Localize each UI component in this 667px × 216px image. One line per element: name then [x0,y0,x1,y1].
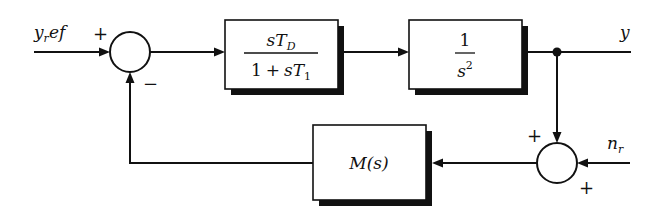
error-summing-junction: + − [93,23,158,94]
minus-sign: − [143,73,158,94]
output-signal: y [528,22,631,57]
arrowhead-icon [398,48,409,57]
plus-sign-bottom: + [579,177,594,198]
controller-block: sTD 1+sT1 [225,20,344,95]
arrowhead-icon [99,48,110,57]
summing-junction-circle [537,143,577,183]
plus-sign-top: + [527,125,542,146]
plus-sign: + [93,23,108,44]
block-diagram: yref + − sTD 1+sT1 1 s2 y [0,0,667,216]
arrowhead-icon [126,72,135,83]
plant-block: 1 s2 [409,20,528,95]
arrowhead-icon [432,159,443,168]
noise-label: nr [607,133,624,156]
reference-input-label: yref [33,22,68,45]
sensor-label: M(s) [348,153,388,173]
output-label: y [619,22,630,42]
arrowhead-icon [577,159,588,168]
arrowhead-icon [553,132,562,143]
sensor-block: M(s) [313,125,432,206]
plant-numerator: 1 [460,30,471,50]
arrowhead-icon [214,48,225,57]
summing-junction-circle [110,32,150,72]
noise-input-signal: nr [577,133,630,168]
